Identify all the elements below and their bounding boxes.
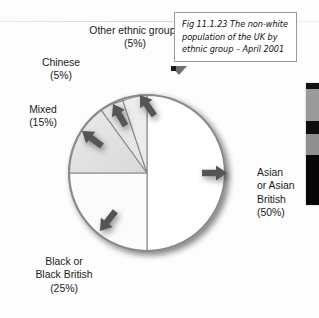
edge-strip-band-1 xyxy=(306,89,319,121)
pie-label-black-or-black-british: Black or Black British (25%) xyxy=(6,255,122,295)
caption-pointer-arrow-icon xyxy=(171,66,187,75)
edge-strip-band-4 xyxy=(306,155,319,205)
pie-label-chinese: Chinese (5%) xyxy=(18,56,104,83)
figure-canvas: Other ethnic groups (5%) Chinese (5%) Mi… xyxy=(0,0,319,318)
edge-strip-band-2 xyxy=(306,121,319,134)
page-edge-colour-bar xyxy=(306,83,319,205)
pie-label-mixed: Mixed (15%) xyxy=(6,103,80,130)
figure-caption-box: Fig 11.1.23 The non-white population of … xyxy=(174,12,297,62)
pie-disc-group xyxy=(69,95,225,251)
figure-caption-text: Fig 11.1.23 The non-white population of … xyxy=(182,18,290,56)
edge-strip-band-3 xyxy=(306,134,319,155)
